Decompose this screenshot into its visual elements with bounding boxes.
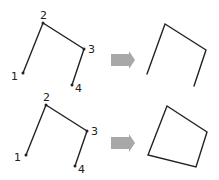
row1-result-polyline	[147, 24, 206, 86]
point-marker	[74, 165, 77, 168]
right-arrow-icon	[111, 51, 135, 69]
row2-result-polygon	[148, 106, 207, 167]
point-marker	[25, 154, 28, 157]
row1-source: 1 2 3 4	[11, 9, 95, 95]
point-label-3: 3	[88, 43, 95, 56]
point-label-1: 1	[14, 151, 21, 164]
row1-source-polyline	[23, 23, 84, 85]
right-arrow-icon	[111, 134, 135, 152]
row2-source-polyline	[26, 105, 87, 166]
point-marker	[71, 84, 74, 87]
point-marker	[22, 72, 25, 75]
point-label-2: 2	[43, 91, 50, 104]
point-marker	[86, 130, 89, 133]
point-label-4: 4	[75, 82, 82, 95]
point-label-1: 1	[11, 70, 18, 83]
point-marker	[83, 48, 86, 51]
point-label-3: 3	[91, 125, 98, 138]
diagram-canvas: 1 2 3 4 1 2 3 4	[0, 0, 219, 180]
row2-source: 1 2 3 4	[14, 91, 98, 176]
point-label-2: 2	[40, 9, 47, 22]
point-label-4: 4	[78, 163, 85, 176]
